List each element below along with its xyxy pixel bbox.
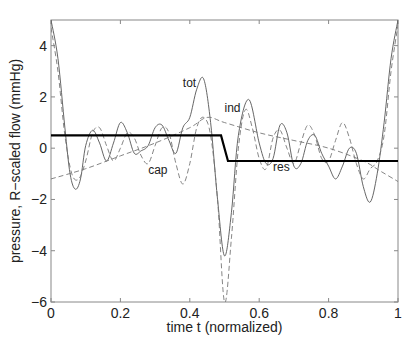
annotation-cap: cap: [148, 163, 168, 177]
y-tick-label: 4: [39, 38, 47, 54]
x-tick-label: 0.2: [111, 305, 131, 321]
chart: 00.20.40.60.81 −6−4−2024 totindcapres ti…: [0, 0, 414, 349]
x-axis-label: time t (normalized): [167, 319, 283, 335]
y-tick-label: 0: [39, 140, 47, 156]
x-tick-label: 1: [394, 305, 402, 321]
annotation-res: res: [273, 160, 290, 174]
annotation-tot: tot: [183, 76, 197, 90]
y-axis-label: pressure, R−scaled flow (mmHg): [7, 59, 23, 263]
annotation-ind: ind: [225, 101, 241, 115]
y-tick-label: −2: [31, 191, 47, 207]
y-tick-label: 2: [39, 89, 47, 105]
y-tick-label: −6: [31, 294, 47, 310]
x-tick-label: 0.8: [319, 305, 339, 321]
x-tick-label: 0: [47, 305, 55, 321]
y-tick-label: −4: [31, 243, 47, 259]
